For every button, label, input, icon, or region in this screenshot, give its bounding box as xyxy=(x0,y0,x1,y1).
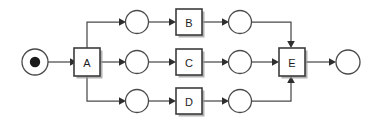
arc-middle-place-to-c xyxy=(149,58,177,66)
arc-top-place-to-b xyxy=(149,18,177,26)
arc-start-to-a xyxy=(48,58,77,66)
petri-net-canvas: A B C D E xyxy=(0,0,372,124)
transition-e-label: E xyxy=(288,57,296,69)
place-bottom-input xyxy=(126,90,149,113)
arc-bottom-place-to-d xyxy=(149,97,177,105)
transition-c-label: C xyxy=(185,57,193,69)
place-end xyxy=(336,50,360,74)
place-start xyxy=(22,49,48,75)
place-top-input xyxy=(126,11,149,34)
place-bottom-output xyxy=(229,90,252,113)
transition-d-label: D xyxy=(185,96,193,108)
petri-net-diagram: A B C D E xyxy=(0,0,372,124)
arc-a-to-top-place xyxy=(87,18,126,48)
transition-e: E xyxy=(279,48,308,79)
token-marker xyxy=(30,57,40,67)
transition-a-label: A xyxy=(83,57,91,69)
arc-b-to-top-out-place xyxy=(202,18,229,26)
transition-c: C xyxy=(176,49,205,78)
place-top-output xyxy=(229,11,252,34)
transition-a: A xyxy=(74,48,103,79)
arc-a-to-middle-place xyxy=(100,58,126,66)
place-middle-input xyxy=(126,51,149,74)
place-middle-output xyxy=(229,51,252,74)
arc-middle-out-place-to-e xyxy=(252,58,280,66)
transition-b: B xyxy=(176,9,205,38)
arc-c-to-middle-out-place xyxy=(202,58,229,66)
arc-top-out-place-to-e xyxy=(252,22,295,48)
arc-e-to-end-place xyxy=(305,58,336,66)
arc-d-to-bottom-out-place xyxy=(202,97,229,105)
arc-bottom-out-place-to-e xyxy=(252,76,295,101)
transition-b-label: B xyxy=(185,17,193,29)
arc-a-to-bottom-place xyxy=(87,76,126,105)
transition-d: D xyxy=(176,88,205,117)
